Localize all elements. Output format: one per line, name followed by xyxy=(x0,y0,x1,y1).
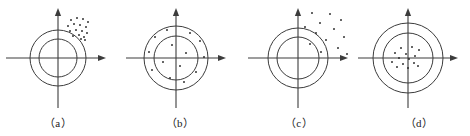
data-point xyxy=(398,57,400,59)
data-point xyxy=(162,61,164,63)
data-point xyxy=(189,32,191,34)
data-point xyxy=(340,19,342,21)
data-point xyxy=(337,47,339,49)
x-axis-arrowhead-b xyxy=(218,55,226,61)
data-point xyxy=(407,67,409,69)
y-axis-arrowhead-b xyxy=(173,8,179,16)
data-point xyxy=(329,13,331,15)
panel-caption-b: （b） xyxy=(150,114,210,130)
data-point xyxy=(80,38,82,40)
data-point xyxy=(319,22,321,24)
panel-caption-a: （a） xyxy=(28,114,88,130)
data-point xyxy=(169,77,171,79)
data-point xyxy=(391,61,393,63)
data-point xyxy=(84,39,86,41)
data-point xyxy=(87,21,89,23)
data-point xyxy=(72,35,74,37)
target-panel-b xyxy=(126,8,226,108)
data-point xyxy=(185,52,187,54)
data-point xyxy=(67,25,69,27)
data-point xyxy=(73,23,75,25)
data-point xyxy=(195,71,197,73)
data-point xyxy=(183,81,185,83)
data-point xyxy=(76,17,78,19)
data-point xyxy=(418,49,420,51)
data-point xyxy=(402,63,404,65)
data-point xyxy=(325,39,327,41)
data-point xyxy=(171,44,173,46)
data-point xyxy=(79,24,81,26)
data-point xyxy=(86,32,88,34)
data-point xyxy=(85,26,87,28)
data-point xyxy=(75,29,77,31)
target-panel-a xyxy=(6,8,106,108)
data-point xyxy=(179,65,181,67)
data-point xyxy=(69,30,71,32)
y-axis-arrowhead-c xyxy=(295,8,301,16)
data-point xyxy=(82,18,84,20)
target-panel-c xyxy=(248,8,348,108)
data-point xyxy=(414,55,416,57)
data-point xyxy=(148,51,150,53)
target-panel-d xyxy=(358,8,458,108)
data-point xyxy=(315,32,317,34)
data-point xyxy=(411,46,413,48)
data-point xyxy=(417,65,419,67)
x-axis-arrowhead-c xyxy=(340,55,348,61)
data-point xyxy=(199,40,201,42)
panel-caption-d: （d） xyxy=(389,114,449,130)
accuracy-precision-figure: （a） （b） （c） （d） xyxy=(0,0,470,136)
data-point xyxy=(400,47,402,49)
data-point xyxy=(83,36,85,38)
data-point xyxy=(166,29,168,31)
data-point xyxy=(151,69,153,71)
y-axis-arrowhead-a xyxy=(55,8,61,16)
x-axis-arrowhead-d xyxy=(450,55,458,61)
data-point xyxy=(405,53,407,55)
data-point xyxy=(81,30,83,32)
data-point xyxy=(346,53,348,55)
data-point xyxy=(333,28,335,30)
panel-caption-c: （c） xyxy=(269,114,329,130)
data-point xyxy=(203,56,205,58)
data-point xyxy=(394,52,396,54)
data-point xyxy=(154,36,156,38)
y-axis-arrowhead-d xyxy=(405,8,411,16)
x-axis-arrowhead-a xyxy=(98,55,106,61)
data-point xyxy=(408,58,410,60)
data-point xyxy=(343,36,345,38)
data-point xyxy=(413,62,415,64)
data-point xyxy=(70,19,72,21)
data-point xyxy=(311,12,313,14)
data-point xyxy=(304,26,306,28)
data-point xyxy=(309,43,311,45)
data-point xyxy=(396,66,398,68)
data-point xyxy=(78,34,80,36)
data-point xyxy=(320,51,322,53)
